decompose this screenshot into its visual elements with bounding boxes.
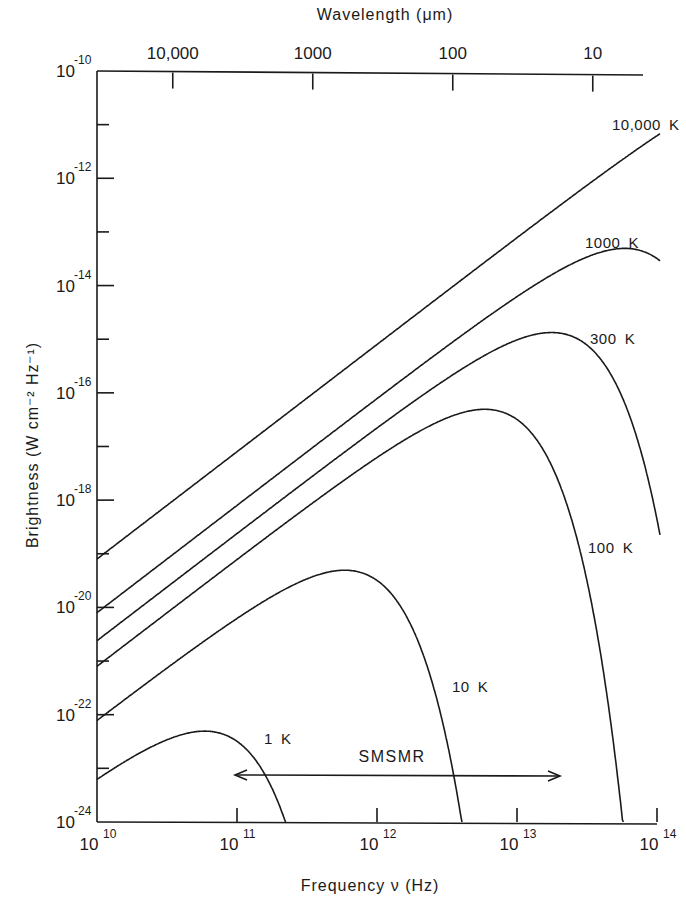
top-axis-title: Wavelength (μm) (317, 6, 454, 23)
y-tick-label-exponent: -20 (74, 589, 92, 603)
y-tick-label: 10 (56, 384, 75, 403)
x-tick-label: 10 (80, 835, 99, 854)
top-tick-label: 10,000 (147, 44, 199, 63)
y-tick-label: 10 (56, 598, 75, 617)
curve-10k (97, 570, 462, 822)
smsmr-range-arrow (235, 775, 560, 776)
top-tick-label: 100 (439, 44, 467, 63)
x-tick-label-exponent: 11 (243, 827, 256, 841)
y-tick-label: 10 (56, 813, 75, 832)
y-tick-label: 10 (56, 277, 75, 296)
curve-1k (97, 731, 286, 822)
curve-label-1k: 1 K (264, 730, 292, 747)
y-tick-label: 10 (56, 706, 75, 725)
curve-label-1000k: 1000 K (585, 234, 639, 251)
curve-label-10k: 10 K (452, 678, 488, 695)
y-tick-label-exponent: -22 (74, 697, 92, 711)
curve-10000k (97, 134, 660, 559)
y-tick-label: 10 (56, 169, 75, 188)
curves (97, 134, 660, 822)
curve-1000k (97, 248, 660, 612)
x-tick-label-exponent: 10 (103, 827, 117, 841)
y-tick-label-exponent: -10 (74, 53, 92, 67)
y-tick-label: 10 (56, 62, 75, 81)
top-tick-label: 10 (583, 44, 602, 63)
y-tick-label-exponent: -18 (74, 482, 92, 496)
smsmr-label: SMSMR (358, 748, 425, 765)
x-axis-line (97, 822, 657, 824)
x-tick-label-exponent: 12 (383, 827, 397, 841)
curve-300k (97, 333, 660, 641)
y-tick-label-exponent: -24 (74, 804, 92, 818)
y-axis-title: Brightness (W cm⁻² Hz⁻¹) (24, 342, 41, 548)
curve-label-10000k: 10,000 K (612, 116, 680, 133)
axes (97, 71, 657, 824)
x-tick-label-exponent: 13 (523, 827, 537, 841)
curve-label-300k: 300 K (590, 330, 635, 347)
y-tick-label-exponent: -16 (74, 375, 92, 389)
x-tick-label-exponent: 14 (663, 827, 677, 841)
x-tick-label: 10 (500, 835, 519, 854)
x-tick-label: 10 (360, 835, 379, 854)
curve-label-100k: 100 K (588, 539, 633, 556)
x-tick-label: 10 (220, 835, 239, 854)
blackbody-chart: 1010101110121013101410-1010-1210-1410-16… (0, 0, 686, 903)
labels: 1010101110121013101410-1010-1210-1410-16… (56, 44, 679, 854)
top-axis-line (97, 71, 643, 75)
y-tick-label: 10 (56, 491, 75, 510)
y-tick-label-exponent: -14 (74, 268, 92, 282)
x-tick-label: 10 (640, 835, 659, 854)
x-axis-title: Frequency ν (Hz) (301, 877, 440, 894)
top-tick-label: 1000 (294, 44, 332, 63)
y-tick-label-exponent: -12 (74, 160, 92, 174)
